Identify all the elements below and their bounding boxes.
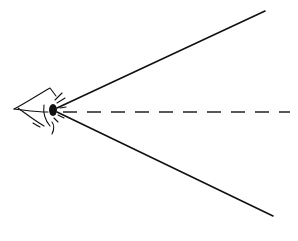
eye-icon (14, 88, 66, 134)
pupil (49, 104, 57, 116)
diagram-svg (0, 0, 298, 241)
eye-field-of-view-diagram (0, 0, 298, 241)
lower-sight-line (57, 112, 273, 216)
upper-sight-line (57, 11, 265, 108)
